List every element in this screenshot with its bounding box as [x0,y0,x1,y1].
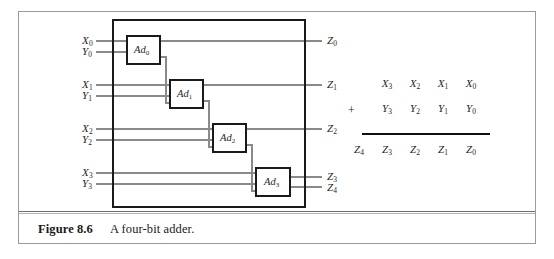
output-label-z2: Z2 [327,123,337,134]
sum-cell-2: Z2 [404,144,426,155]
addition-row-addend: + Y3 Y2 Y1 Y0 [348,103,498,128]
augend-cell-1: X1 [432,78,454,89]
input-label-y0: Y0 [82,46,92,57]
addend-cell-2: Y2 [404,103,426,114]
augend-cell-0: X0 [460,78,482,89]
input-label-y1: Y1 [82,90,92,101]
augend-cell-2: X2 [404,78,426,89]
addition-bar [362,133,490,135]
figure-caption: Figure 8.6A four-bit adder. [38,222,194,237]
adder-block-label-2: Ad2 [220,133,235,144]
augend-cell-3: X3 [376,78,398,89]
output-label-z0: Z0 [327,35,337,46]
output-label-z1: Z1 [327,79,337,90]
sum-cell-0: Z0 [460,144,482,155]
addition-table: X3 X2 X1 X0 + Y3 Y2 Y1 Y0 [348,78,498,169]
addend-cell-1: Y1 [432,103,454,114]
adder-block-label-1: Ad1 [177,89,192,100]
addition-operator: + [348,104,355,116]
addition-row-sum: Z4 Z3 Z2 Z1 Z0 [348,144,498,169]
addition-row-augend: X3 X2 X1 X0 [348,78,498,103]
caption-rule-bottom [19,213,535,214]
addend-cell-0: Y0 [460,103,482,114]
caption-separator-rule [19,211,535,214]
input-label-y2: Y2 [82,134,92,145]
adder-block-label-0: Ad0 [134,45,149,56]
sum-cell-4: Z4 [348,144,370,155]
adder-block-label-3: Ad3 [264,177,279,188]
sum-cell-1: Z1 [432,144,454,155]
addend-cell-3: Y3 [376,103,398,114]
sum-cell-3: Z3 [376,144,398,155]
figure-page: Ad0 Ad1 Ad2 Ad3 X0 Y0 X1 Y1 X2 Y2 X3 Y3 … [0,0,554,259]
figure-caption-text: A four-bit adder. [110,222,194,236]
figure-caption-label: Figure 8.6 [38,222,93,236]
input-label-y3: Y3 [82,178,92,189]
output-label-z4: Z4 [327,182,337,193]
caption-rule-top [19,211,535,212]
